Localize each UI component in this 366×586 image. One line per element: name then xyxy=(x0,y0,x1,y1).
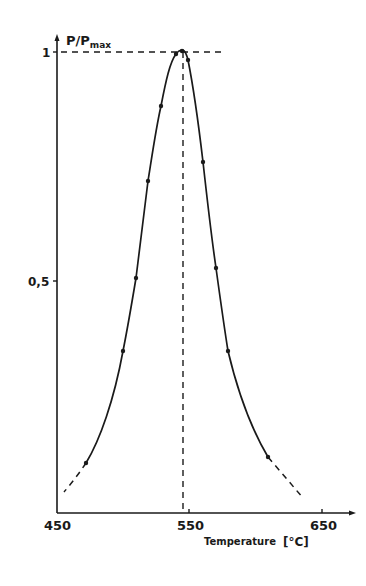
data-point xyxy=(201,160,205,164)
y-axis-label-main: P/P xyxy=(66,33,90,48)
y-axis-label-sub: max xyxy=(90,40,111,50)
chart: 450 550 650 0,5 1 P/Pmax Temperature [°C… xyxy=(0,0,366,586)
x-tick-label: 450 xyxy=(44,518,71,533)
right-tail-dashed xyxy=(268,457,303,498)
data-point xyxy=(180,49,184,53)
data-point xyxy=(174,52,178,56)
data-point xyxy=(226,349,230,353)
data-point xyxy=(121,349,125,353)
data-curve xyxy=(86,50,268,463)
y-axis-arrow-icon xyxy=(55,34,60,41)
axes xyxy=(57,38,352,513)
data-point xyxy=(186,58,190,62)
data-point xyxy=(159,104,163,108)
y-tick-label: 0,5 xyxy=(28,275,49,289)
x-tick-label: 550 xyxy=(177,518,204,533)
ticks xyxy=(53,52,322,513)
y-axis-label: P/Pmax xyxy=(66,33,111,50)
x-axis-unit: [°C] xyxy=(283,535,309,549)
data-point xyxy=(266,455,270,459)
data-point xyxy=(134,276,138,280)
x-axis-arrow-icon xyxy=(349,511,356,516)
x-axis-label: Temperature xyxy=(204,536,276,547)
data-point xyxy=(214,266,218,270)
y-tick-label: 1 xyxy=(42,46,50,60)
x-tick-label: 650 xyxy=(310,518,337,533)
data-point xyxy=(146,179,150,183)
left-tail-dashed xyxy=(64,463,86,492)
data-point xyxy=(84,461,88,465)
